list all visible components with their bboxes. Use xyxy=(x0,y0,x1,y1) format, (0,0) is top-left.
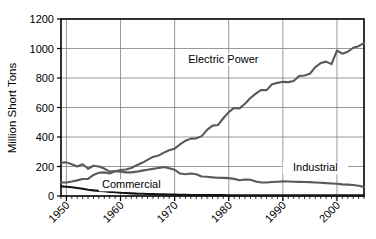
y-tick-label: 1200 xyxy=(30,13,54,25)
y-tick-label: 200 xyxy=(36,161,54,173)
y-axis-title: Million Short Tons xyxy=(6,62,18,153)
chart-background xyxy=(0,0,376,239)
chart-container: 020040060080010001200 195019601970198019… xyxy=(0,0,376,239)
line-chart: 020040060080010001200 195019601970198019… xyxy=(0,0,376,239)
series-label-commercial: Commercial xyxy=(102,178,161,190)
y-tick-label: 800 xyxy=(36,72,54,84)
y-tick-label: 600 xyxy=(36,102,54,114)
y-tick-label: 1000 xyxy=(30,43,54,55)
y-tick-label: 0 xyxy=(48,190,54,202)
y-tick-label: 400 xyxy=(36,131,54,143)
series-label-industrial: Industrial xyxy=(293,161,338,173)
series-label-electric-power: Electric Power xyxy=(188,53,259,65)
